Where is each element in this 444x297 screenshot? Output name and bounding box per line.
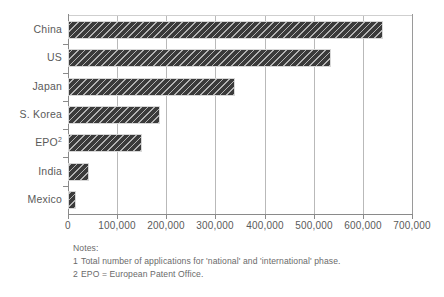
category-label-epo: EPO2 [0,136,62,148]
note-item-1: 1Total number of applications for 'natio… [73,255,341,268]
category-label-us: US [0,51,62,63]
y-tick-mark [63,73,68,74]
bar-china [68,21,383,39]
x-axis-line [68,214,413,215]
bar-us [68,49,331,67]
bar-japan [68,78,235,96]
bar-india [68,163,89,181]
x-tick-label: 700,000 [393,220,431,231]
y-tick-mark [63,129,68,130]
plot-region: ChinaUSJapanS. KoreaEPO2IndiaMexico 0100… [0,0,444,232]
notes-heading: Notes: [73,242,341,255]
note-text: EPO = European Patent Office. [81,269,203,279]
x-tick-mark [215,215,216,219]
category-label-china: China [0,23,62,35]
x-tick-mark [265,215,266,219]
y-tick-mark [63,101,68,102]
x-tick-label: 400,000 [246,220,284,231]
x-tick-mark [117,215,118,219]
patent-applications-bar-chart: ChinaUSJapanS. KoreaEPO2IndiaMexico 0100… [0,0,444,297]
gridline-200000 [166,16,167,214]
category-label-india: India [0,165,62,177]
x-tick-label: 200,000 [147,220,185,231]
x-tick-label: 500,000 [295,220,333,231]
y-tick-mark [63,44,68,45]
plot-top-border [68,15,413,16]
chart-notes: Notes: 1Total number of applications for… [73,242,341,281]
gridline-600000 [363,16,364,214]
category-label-japan: Japan [0,80,62,92]
gridline-500000 [314,16,315,214]
note-text: Total number of applications for 'nation… [81,256,341,266]
y-tick-mark [63,157,68,158]
gridline-400000 [265,16,266,214]
x-tick-label: 100,000 [98,220,136,231]
x-tick-mark [68,215,69,219]
category-label-footnote-marker: 2 [58,136,62,143]
plot-right-border [412,14,413,215]
x-tick-label: 0 [65,220,71,231]
category-label-s-korea: S. Korea [0,108,62,120]
x-tick-label: 600,000 [344,220,382,231]
bar-mexico [68,191,76,209]
note-item-2: 2EPO = European Patent Office. [73,268,341,281]
bar-epo [68,134,142,152]
x-tick-mark [314,215,315,219]
x-tick-mark [166,215,167,219]
x-tick-mark [363,215,364,219]
gridline-300000 [215,16,216,214]
x-tick-label: 300,000 [196,220,234,231]
bar-s-korea [68,106,160,124]
y-tick-mark [63,186,68,187]
x-tick-mark [412,215,413,219]
note-number: 2 [73,268,81,281]
category-label-mexico: Mexico [0,193,62,205]
note-number: 1 [73,255,81,268]
